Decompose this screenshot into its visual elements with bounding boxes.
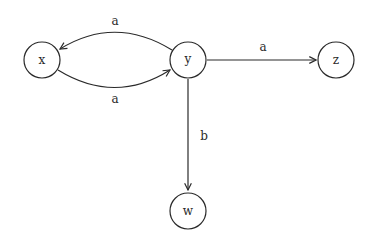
node-y-label: y	[184, 52, 192, 66]
edge-y-to-x	[60, 32, 172, 50]
state-diagram: a a a b x y z w	[0, 0, 369, 241]
node-z-label: z	[333, 53, 339, 67]
edge-label-y-x: a	[111, 14, 118, 28]
node-y: y	[170, 42, 206, 78]
node-w-label: w	[183, 204, 194, 218]
node-w: w	[170, 193, 206, 229]
edge-label-y-w: b	[200, 129, 208, 143]
edge-label-x-y: a	[111, 92, 118, 106]
node-z: z	[318, 42, 354, 78]
edge-label-y-z: a	[259, 40, 266, 54]
node-x-label: x	[39, 53, 46, 67]
edge-x-to-y	[58, 70, 170, 88]
node-x: x	[24, 42, 60, 78]
